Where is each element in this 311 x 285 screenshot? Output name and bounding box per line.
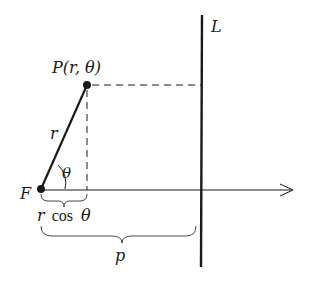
directrix-line	[201, 15, 202, 267]
projection-theta: θ	[81, 206, 91, 225]
angle-label: θ	[62, 164, 71, 182]
point-p	[83, 81, 91, 89]
focus-label: F	[19, 184, 32, 203]
brace-p	[41, 226, 196, 243]
focus-point	[37, 185, 45, 193]
projection-label: r cos θ	[37, 206, 91, 225]
point-label: P(r, θ)	[51, 58, 101, 77]
radius-label: r	[50, 124, 59, 143]
distance-label: p	[115, 246, 125, 265]
projection-cos: cos	[52, 207, 73, 224]
projection-r: r	[37, 206, 46, 225]
polar-directrix-diagram: L P(r, θ) r θ F r cos θ p	[0, 0, 311, 285]
directrix-label: L	[210, 17, 222, 36]
